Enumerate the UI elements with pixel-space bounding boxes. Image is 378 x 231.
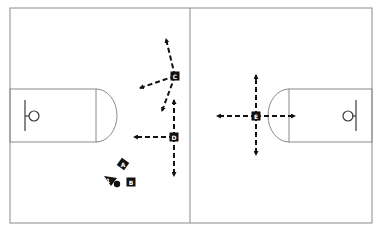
movement-arrows [134, 39, 295, 176]
right-hoop-icon [343, 111, 353, 121]
movement-arrow-c [140, 76, 175, 88]
left-key [10, 89, 117, 142]
right-free-throw-arc [268, 89, 289, 142]
left-free-throw-arc [96, 89, 117, 142]
movement-arrow-c [166, 39, 175, 76]
player-label: D [172, 134, 177, 141]
player-label: B [129, 179, 134, 186]
right-lane [289, 89, 372, 142]
player-e: E [252, 112, 261, 121]
player-label: A [121, 161, 126, 168]
player-label: E [254, 113, 258, 120]
player-label: C [173, 73, 178, 80]
player-d: D [170, 133, 179, 142]
court-boundary [10, 8, 372, 223]
left-hoop-icon [29, 111, 39, 121]
movement-arrow-c [162, 76, 175, 111]
ball-handler-label: 1 [106, 177, 110, 184]
basketball-court: 1 ABCDE [0, 0, 378, 231]
player-a: A [117, 158, 130, 171]
player-b: B [127, 178, 136, 187]
player-c: C [171, 72, 180, 81]
players: ABCDE [117, 72, 261, 187]
left-lane [10, 89, 96, 142]
basketball-icon [114, 181, 120, 187]
ball-handler-1: 1 [104, 176, 120, 187]
